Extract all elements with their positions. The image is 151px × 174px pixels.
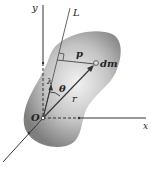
- p-label: p: [76, 48, 83, 59]
- lambda-label: λ: [46, 77, 52, 86]
- rigid-body: [24, 31, 121, 147]
- diagram-canvas: y L p dm λ θ r O x: [0, 0, 151, 174]
- y-axis-tick: [42, 62, 44, 64]
- x-axis-label: x: [143, 121, 148, 131]
- origin-point: [41, 116, 45, 120]
- y-axis-label: y: [31, 2, 38, 13]
- z-axis-tick: [28, 132, 30, 134]
- mass-element-dm: [94, 61, 99, 66]
- x-axis-tick: [78, 117, 80, 119]
- dm-label: dm: [100, 58, 118, 69]
- origin-label: O: [31, 112, 40, 123]
- theta-label: θ: [59, 83, 66, 94]
- axis-L-label: L: [72, 7, 80, 18]
